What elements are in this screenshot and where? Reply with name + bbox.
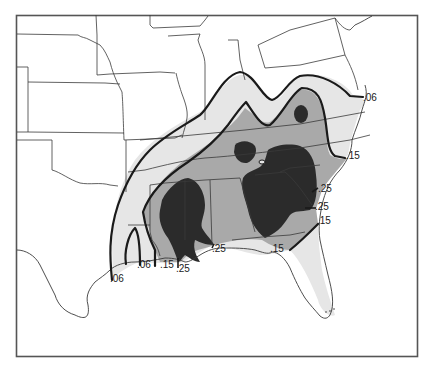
map-svg: .06 .15 .25 .25 .15 .15 .25 .25 .15 .06 … xyxy=(0,0,432,373)
zone-025-area-va xyxy=(294,105,308,123)
zone-hole xyxy=(259,160,265,164)
label-atlantic-025-a: .25 xyxy=(318,183,332,194)
label-atlantic-015: .15 xyxy=(346,150,360,161)
label-gulf-006-la: .06 xyxy=(137,259,151,270)
label-gulf-015-fl: .15 xyxy=(270,243,284,254)
label-atlantic-015-b: .15 xyxy=(317,215,331,226)
label-atlantic-025-b: .25 xyxy=(315,201,329,212)
label-gulf-025-al: .25 xyxy=(212,243,226,254)
label-gulf-006-tx: .06 xyxy=(110,273,124,284)
label-gulf-015-la: .15 xyxy=(160,259,174,270)
label-gulf-025-la: .25 xyxy=(176,263,190,274)
label-atlantic-006: .06 xyxy=(363,92,377,103)
contour-map: .06 .15 .25 .25 .15 .15 .25 .25 .15 .06 … xyxy=(0,0,432,373)
